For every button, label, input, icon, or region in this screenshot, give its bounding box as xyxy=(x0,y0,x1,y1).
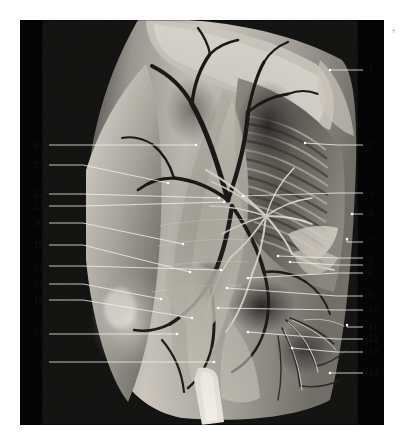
anatomy-figure: + 24232221201918171615412345678910111213… xyxy=(0,0,402,448)
label-right-9: 9 xyxy=(368,291,373,302)
label-right-4: 4 xyxy=(368,209,373,220)
label-right-8: 8 xyxy=(368,268,373,279)
registration-mark: + xyxy=(391,28,398,35)
label-right-2: 2 xyxy=(368,140,373,151)
label-right-13: 13 xyxy=(368,347,379,358)
label-left-20: 20 xyxy=(34,218,45,229)
label-left-18: 18 xyxy=(34,261,45,272)
dissection-photograph xyxy=(42,20,358,425)
label-right-3: 3 xyxy=(368,188,373,199)
label-left-21: 21 xyxy=(34,201,45,212)
label-right-10: 10 xyxy=(368,305,379,316)
label-right-11: 11 xyxy=(368,322,378,333)
label-left-15: 15 xyxy=(34,329,45,340)
label-left-19: 19 xyxy=(34,240,45,251)
label-left-16: 16 xyxy=(34,295,45,306)
label-right-12: 12 xyxy=(368,334,379,345)
label-right-14: 14 xyxy=(368,368,379,379)
label-right-1: 1 xyxy=(368,65,373,76)
label-left-23: 23 xyxy=(34,160,45,171)
label-left-22: 22 xyxy=(34,189,45,200)
label-left-17: 17 xyxy=(34,279,45,290)
label-left-4: 4 xyxy=(39,357,44,368)
label-right-5: 5 xyxy=(368,237,373,248)
label-left-24: 24 xyxy=(34,140,45,151)
